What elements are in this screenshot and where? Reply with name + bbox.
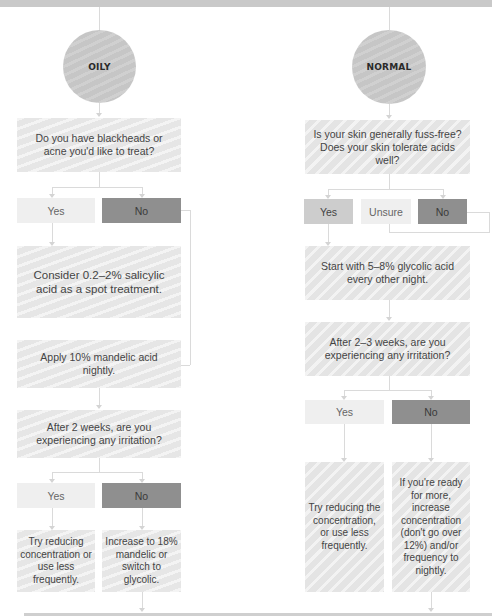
- connector: [389, 376, 390, 390]
- connector: [389, 7, 390, 30]
- oily-mandelic-step: Apply 10% mandelic acid nightly.: [17, 340, 181, 388]
- connector: [389, 224, 390, 232]
- normal-answer2-no: No: [392, 400, 470, 424]
- normal-answer-yes: Yes: [304, 199, 353, 224]
- oily-answer2-yes: Yes: [17, 483, 95, 508]
- normal-yes2-result: Try reducing the concentration, or use l…: [305, 462, 384, 592]
- connector: [52, 508, 53, 528]
- arrow-down-icon: [428, 608, 434, 612]
- connector: [52, 223, 53, 244]
- oily-answer2-no: No: [102, 483, 181, 508]
- oily-salicylic-result: Consider 0.2–2% salicylic acid as a spot…: [17, 246, 181, 318]
- oily-no2-result: Increase to 18% mandelic or switch to gl…: [102, 530, 181, 592]
- connector: [190, 210, 191, 365]
- connector: [99, 172, 100, 187]
- oily-start-node: OILY: [63, 30, 136, 103]
- top-band: [0, 0, 492, 7]
- oily-answer-no: No: [102, 198, 181, 223]
- oily-question-2: After 2 weeks, are you experiencing any …: [17, 410, 181, 458]
- oily-question-1: Do you have blackheads or acne you'd lik…: [17, 118, 181, 172]
- arrow-down-icon: [386, 115, 392, 119]
- normal-start-node: NORMAL: [352, 30, 426, 104]
- connector: [431, 424, 432, 460]
- connector: [181, 210, 190, 211]
- connector: [489, 212, 490, 232]
- connector: [99, 458, 100, 472]
- connector: [467, 212, 489, 213]
- oily-yes2-result: Try reducing concentration or use less f…: [17, 530, 95, 592]
- arrow-down-icon: [96, 113, 102, 117]
- connector: [344, 390, 431, 391]
- arrow-down-icon: [386, 317, 392, 321]
- connector: [328, 189, 443, 190]
- connector: [181, 365, 190, 366]
- connector: [389, 174, 390, 189]
- arrow-down-icon: [96, 405, 102, 409]
- connector: [142, 508, 143, 528]
- connector: [52, 187, 142, 188]
- oily-answer-yes: Yes: [17, 198, 95, 223]
- normal-glycolic-result: Start with 5–8% glycolic acid every othe…: [305, 246, 470, 300]
- arrow-down-icon: [139, 608, 145, 612]
- normal-question-2: After 2–3 weeks, are you experiencing an…: [305, 322, 470, 376]
- normal-answer-unsure: Unsure: [361, 199, 411, 224]
- normal-answer2-yes: Yes: [305, 400, 384, 424]
- connector: [328, 224, 329, 244]
- normal-answer-no: No: [418, 199, 467, 224]
- connector: [52, 472, 142, 473]
- connector: [344, 424, 345, 460]
- normal-no2-result: If you're ready for more, increase conce…: [392, 462, 470, 592]
- normal-question-1: Is your skin generally fuss-free? Does y…: [305, 120, 470, 174]
- connector: [99, 7, 100, 30]
- connector: [389, 232, 490, 233]
